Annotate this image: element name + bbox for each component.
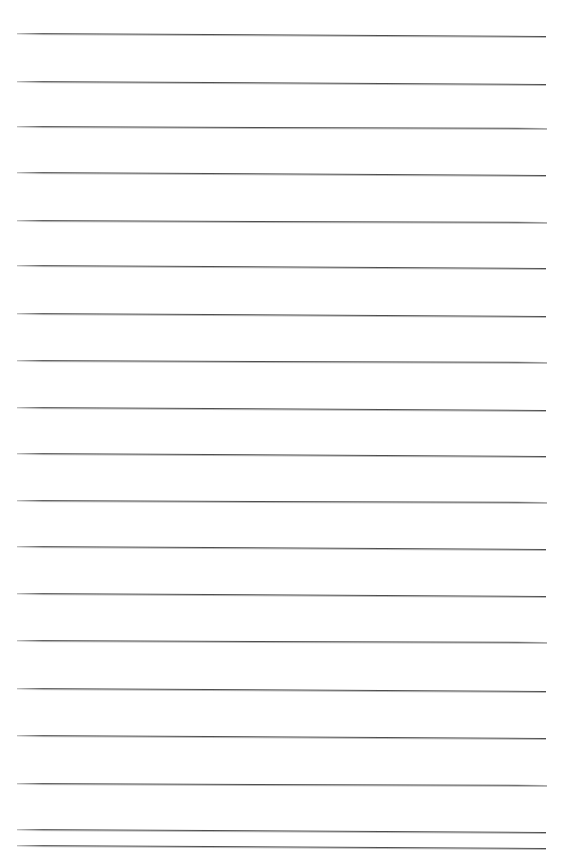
- ruled-line-shadow: [17, 34, 546, 38]
- ruled-line-left-fade: [17, 80, 43, 84]
- ruled-line-right-fade: [517, 219, 547, 223]
- ruled-line-right-fade: [516, 264, 546, 268]
- ruled-line-left-fade: [17, 219, 43, 223]
- ruled-line-shadow: [17, 221, 547, 224]
- ruled-line-left-fade: [17, 844, 43, 848]
- ruled-line-shadow: [17, 408, 546, 412]
- ruled-line-left-fade: [17, 687, 43, 691]
- ruled-line-left-fade: [17, 545, 43, 549]
- ruled-line-left-fade: [17, 32, 43, 36]
- ruled-line-right-fade: [516, 406, 546, 410]
- ruled-line-shadow: [17, 266, 546, 270]
- lined-paper-page: [0, 0, 562, 852]
- ruled-line-stroke: [17, 500, 547, 503]
- ruled-line-right-fade: [516, 844, 546, 848]
- ruled-line-right-fade: [517, 782, 547, 786]
- ruled-line-stroke: [17, 220, 547, 223]
- ruled-line-stroke: [17, 593, 546, 597]
- ruled-line-shadow: [17, 689, 546, 693]
- ruled-line-stroke: [17, 735, 546, 739]
- ruled-line-stroke: [17, 829, 546, 833]
- ruled-line-shadow: [17, 361, 547, 364]
- ruled-line-left-fade: [17, 828, 43, 832]
- ruled-line-stroke: [17, 688, 546, 692]
- ruled-line-shadow: [17, 501, 547, 504]
- ruled-line-stroke: [17, 453, 546, 457]
- ruled-line-stroke: [17, 33, 546, 37]
- ruled-line-shadow: [17, 127, 547, 130]
- ruled-line-shadow: [17, 830, 546, 834]
- ruled-line-right-fade: [516, 687, 546, 691]
- ruled-line-stroke: [17, 845, 546, 849]
- ruled-line-shadow: [17, 547, 546, 551]
- ruled-line-shadow: [17, 82, 546, 86]
- ruled-line-shadow: [17, 846, 546, 850]
- ruled-line-left-fade: [17, 312, 43, 316]
- ruled-line-stroke: [17, 407, 546, 411]
- ruled-line-right-fade: [516, 734, 546, 738]
- ruled-line-left-fade: [17, 639, 43, 643]
- ruled-line-right-fade: [516, 32, 546, 36]
- ruled-line-right-fade: [516, 80, 546, 84]
- ruled-line-right-fade: [516, 545, 546, 549]
- ruled-line-left-fade: [17, 499, 43, 503]
- ruled-line-left-fade: [17, 592, 43, 596]
- ruled-line-shadow: [17, 641, 547, 644]
- ruled-line-stroke: [17, 546, 546, 550]
- ruled-line-right-fade: [516, 171, 546, 175]
- ruled-line-stroke: [17, 265, 546, 269]
- ruled-line-left-fade: [17, 782, 43, 786]
- ruled-line-shadow: [17, 784, 547, 787]
- ruled-line-right-fade: [517, 359, 547, 363]
- ruled-line-right-fade: [516, 592, 546, 596]
- ruled-line-left-fade: [17, 125, 43, 129]
- ruled-line-left-fade: [17, 171, 43, 175]
- ruled-line-shadow: [17, 314, 546, 318]
- ruled-line-left-fade: [17, 359, 43, 363]
- ruled-line-right-fade: [517, 125, 547, 129]
- ruled-line-left-fade: [17, 264, 43, 268]
- ruled-line-stroke: [17, 640, 547, 643]
- ruled-line-stroke: [17, 81, 546, 85]
- ruled-line-left-fade: [17, 452, 43, 456]
- ruled-line-right-fade: [517, 499, 547, 503]
- ruled-line-shadow: [17, 594, 546, 598]
- ruled-line-left-fade: [17, 734, 43, 738]
- ruled-line-left-fade: [17, 406, 43, 410]
- ruled-line-right-fade: [516, 452, 546, 456]
- ruled-line-shadow: [17, 736, 546, 740]
- ruled-line-right-fade: [516, 312, 546, 316]
- ruled-line-right-fade: [517, 639, 547, 643]
- ruled-line-stroke: [17, 126, 547, 129]
- ruled-line-right-fade: [516, 828, 546, 832]
- ruled-line-stroke: [17, 360, 547, 363]
- ruled-line-stroke: [17, 313, 546, 317]
- ruled-line-stroke: [17, 172, 546, 176]
- ruled-line-shadow: [17, 454, 546, 458]
- ruled-line-stroke: [17, 783, 547, 786]
- ruled-line-shadow: [17, 173, 546, 177]
